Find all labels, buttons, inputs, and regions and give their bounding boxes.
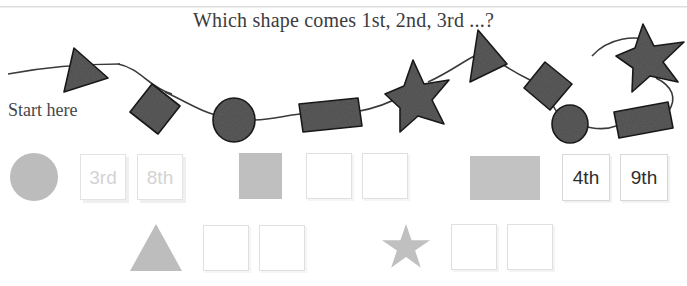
necklace-shape-rectangle (614, 102, 673, 138)
worksheet-page: Which shape comes 1st, 2nd, 3rd ...? Sta… (0, 0, 687, 286)
answer-group-rectangle: 4th 9th (470, 154, 668, 201)
answer-box[interactable] (203, 225, 249, 271)
necklace-shape-triangle (470, 30, 507, 82)
answer-box[interactable]: 3rd (80, 154, 126, 200)
swatch-circle-icon (10, 153, 58, 201)
top-divider-shadow (0, 7, 687, 8)
necklace-shape-circle (213, 98, 255, 142)
necklace-shape-diamond (524, 62, 572, 110)
answer-box[interactable]: 9th (620, 154, 668, 201)
answer-box[interactable] (362, 153, 408, 199)
answer-group-triangle (130, 224, 305, 271)
necklace-shape-star (385, 60, 449, 132)
necklace-shape-star (616, 24, 684, 92)
answer-row-2 (0, 222, 687, 284)
answer-box[interactable] (451, 224, 497, 270)
swatch-star-icon (382, 224, 430, 270)
thread-segment (252, 114, 300, 120)
thread-segment (502, 64, 530, 80)
answer-group-star (382, 224, 553, 270)
swatch-square-icon (239, 153, 282, 199)
answer-box[interactable] (259, 225, 305, 271)
answer-group-square (239, 153, 408, 199)
answer-box[interactable]: 4th (562, 154, 610, 201)
answer-box[interactable] (507, 224, 553, 270)
thread-segment (118, 64, 172, 94)
answer-group-circle: 3rd 8th (10, 153, 183, 201)
swatch-triangle-icon (130, 224, 182, 271)
thread-segment (8, 64, 120, 74)
swatch-rectangle-icon (470, 156, 540, 200)
necklace-shape-rectangle (299, 98, 362, 132)
necklace-shape-triangle (64, 48, 108, 92)
necklace-shape-diamond (130, 84, 180, 134)
necklace-shape-circle (552, 105, 588, 143)
answer-box[interactable] (306, 153, 352, 199)
answer-row-1: 3rd 8th 4th 9th (0, 150, 687, 210)
answer-box[interactable]: 8th (137, 154, 183, 200)
shape-necklace (0, 20, 687, 148)
